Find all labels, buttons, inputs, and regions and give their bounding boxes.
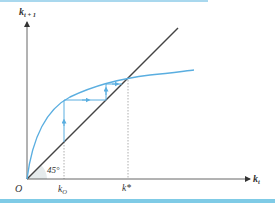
diagonal-45-line bbox=[27, 28, 178, 179]
angle-label: 45° bbox=[47, 165, 60, 175]
bottom-accent-bar bbox=[0, 199, 275, 203]
solow-diagram: kt + 1 kt O 45° kO k* bbox=[0, 0, 275, 204]
savings-curve bbox=[27, 70, 194, 179]
kstar-label: k* bbox=[122, 183, 131, 193]
k0-label: kO bbox=[58, 184, 67, 195]
y-axis-label: kt + 1 bbox=[19, 6, 36, 18]
x-axis-label: kt bbox=[253, 173, 260, 185]
origin-label: O bbox=[15, 183, 22, 194]
